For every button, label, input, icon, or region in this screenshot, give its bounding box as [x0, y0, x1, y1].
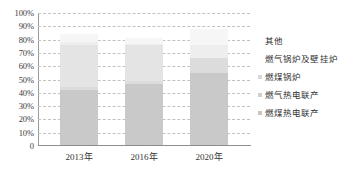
legend-swatch-icon [258, 75, 262, 79]
legend-swatch-icon [258, 39, 262, 43]
x-axis-tick-label: 2016年 [109, 150, 179, 163]
y-axis-tick-label: 50% [19, 75, 34, 84]
bar-segment [125, 45, 163, 81]
bar-segment [190, 45, 228, 58]
legend-item[interactable]: 燃气锅炉及壁挂炉 [258, 50, 353, 68]
bar-2013年 [60, 34, 98, 146]
x-axis-line [38, 145, 251, 146]
plot-area: 100%90%80%70%60%50%40%30%20%10%0 [38, 13, 250, 146]
legend-swatch-icon [258, 111, 262, 115]
legend-item[interactable]: 燃气热电联产 [258, 86, 353, 104]
legend-label: 燃气锅炉及壁挂炉 [265, 55, 338, 64]
bar-2016年 [125, 38, 163, 146]
y-axis-tick-label: 90% [19, 22, 34, 31]
y-axis-tick-label: 20% [19, 115, 34, 124]
legend-label: 燃煤热电联产 [265, 109, 320, 118]
legend-item[interactable]: 燃煤热电联产 [258, 104, 353, 122]
gridline [38, 26, 250, 27]
bar-segment [60, 90, 98, 146]
y-axis-tick-label: 100% [15, 9, 34, 18]
legend-label: 燃气热电联产 [265, 91, 320, 100]
chart-legend: 其他燃气锅炉及壁挂炉燃煤锅炉燃气热电联产燃煤热电联产 [258, 32, 353, 122]
y-axis-tick-label: 80% [19, 35, 34, 44]
y-axis-tick-label: 30% [19, 102, 34, 111]
legend-swatch-icon [258, 57, 262, 61]
y-axis-tick-label: 70% [19, 49, 34, 58]
legend-label: 其他 [265, 37, 283, 46]
x-axis-tick-label: 2013年 [44, 150, 114, 163]
bar-segment [125, 84, 163, 147]
y-axis-tick-label: 10% [19, 128, 34, 137]
y-axis-tick-label: 40% [19, 89, 34, 98]
x-axis-tick-label: 2020年 [174, 150, 244, 163]
gridline [38, 13, 250, 14]
y-axis-tick-label: 0 [30, 142, 34, 151]
legend-item[interactable]: 其他 [258, 32, 353, 50]
bar-segment [190, 58, 228, 73]
bar-segment [60, 34, 98, 42]
stacked-bar-chart-figure: 100%90%80%70%60%50%40%30%20%10%0 2013年20… [0, 0, 353, 177]
legend-item[interactable]: 燃煤锅炉 [258, 68, 353, 86]
bar-2020年 [190, 29, 228, 146]
bar-segment [190, 73, 228, 146]
legend-label: 燃煤锅炉 [265, 73, 301, 82]
bar-segment [190, 29, 228, 45]
bar-segment [60, 45, 98, 88]
y-axis-tick-label: 60% [19, 62, 34, 71]
legend-swatch-icon [258, 93, 262, 97]
